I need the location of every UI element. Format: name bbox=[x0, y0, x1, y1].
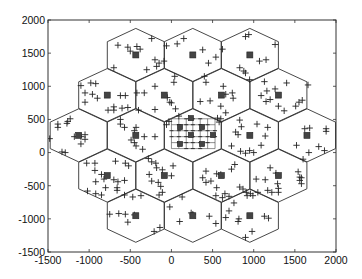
user-plus-marker bbox=[223, 214, 229, 220]
user-plus-marker bbox=[152, 133, 158, 139]
user-plus-marker bbox=[92, 160, 98, 166]
x-tick-label: 2000 bbox=[324, 254, 348, 266]
base-station-marker bbox=[133, 213, 139, 219]
user-plus-marker bbox=[92, 167, 98, 173]
small-cell-marker bbox=[199, 141, 204, 146]
user-plus-marker bbox=[201, 73, 207, 79]
base-station-marker bbox=[218, 92, 224, 98]
user-plus-marker bbox=[237, 65, 243, 71]
base-station-marker bbox=[247, 132, 253, 138]
user-plus-marker bbox=[84, 188, 90, 194]
x-tick-label: 0 bbox=[169, 254, 175, 266]
user-plus-marker bbox=[302, 126, 308, 132]
user-plus-marker bbox=[148, 159, 154, 165]
y-tick-label: 1500 bbox=[22, 47, 46, 59]
user-plus-marker bbox=[261, 78, 267, 84]
user-plus-marker bbox=[264, 88, 270, 94]
user-plus-marker bbox=[176, 218, 182, 224]
user-plus-marker bbox=[117, 121, 123, 127]
user-plus-marker bbox=[121, 124, 127, 130]
user-plus-marker bbox=[246, 76, 252, 82]
x-tick-label: -1000 bbox=[76, 254, 103, 266]
user-plus-marker bbox=[275, 189, 281, 195]
base-station-marker bbox=[76, 132, 82, 138]
user-plus-marker bbox=[292, 103, 298, 109]
user-plus-marker bbox=[305, 82, 311, 88]
user-plus-marker bbox=[228, 143, 234, 149]
user-plus-marker bbox=[152, 106, 158, 112]
user-plus-marker bbox=[134, 90, 140, 96]
base-station-marker bbox=[247, 52, 253, 58]
user-plus-marker bbox=[152, 57, 158, 63]
user-plus-marker bbox=[228, 166, 234, 172]
user-plus-marker bbox=[122, 92, 128, 98]
user-plus-marker bbox=[283, 80, 289, 86]
user-plus-marker bbox=[141, 90, 147, 96]
user-plus-marker bbox=[231, 200, 237, 206]
user-plus-marker bbox=[203, 168, 209, 174]
user-plus-marker bbox=[293, 142, 299, 148]
user-plus-marker bbox=[306, 149, 312, 155]
user-plus-marker bbox=[226, 208, 232, 214]
user-plus-marker bbox=[205, 60, 211, 66]
user-plus-marker bbox=[181, 35, 187, 41]
base-station-marker bbox=[161, 92, 167, 98]
user-plus-marker bbox=[223, 110, 229, 116]
user-plus-marker bbox=[167, 204, 173, 210]
user-plus-marker bbox=[267, 165, 273, 171]
small-cell-marker bbox=[177, 141, 182, 146]
base-station-marker bbox=[190, 213, 196, 219]
user-plus-marker bbox=[213, 54, 219, 60]
hexagonal-cell-scatter-chart: -1500-1000-5000500100015002000 -1500-100… bbox=[0, 0, 362, 279]
user-plus-marker bbox=[55, 124, 61, 130]
user-plus-marker bbox=[172, 106, 178, 112]
x-tick-label: 1000 bbox=[242, 254, 266, 266]
user-plus-marker bbox=[206, 213, 212, 219]
user-plus-marker bbox=[208, 178, 214, 184]
user-plus-marker bbox=[153, 165, 159, 171]
y-tick-label: 500 bbox=[27, 113, 45, 125]
user-plus-marker bbox=[46, 135, 52, 141]
user-plus-marker bbox=[94, 95, 100, 101]
user-plus-marker bbox=[253, 176, 259, 182]
user-plus-marker bbox=[203, 79, 209, 85]
user-plus-marker bbox=[82, 90, 88, 96]
base-station-marker bbox=[104, 173, 110, 179]
user-plus-marker bbox=[119, 105, 125, 111]
user-plus-marker bbox=[207, 98, 213, 104]
base-station-marker bbox=[133, 52, 139, 58]
user-plus-marker bbox=[82, 99, 88, 105]
user-plus-marker bbox=[168, 173, 174, 179]
user-plus-marker bbox=[199, 47, 205, 53]
user-plus-marker bbox=[83, 160, 89, 166]
base-station-marker bbox=[275, 173, 281, 179]
x-tick-label: 1500 bbox=[283, 254, 307, 266]
user-plus-marker bbox=[219, 46, 225, 52]
user-plus-marker bbox=[122, 211, 128, 217]
x-tick-label: 500 bbox=[204, 254, 222, 266]
y-tick-label: -1500 bbox=[18, 246, 45, 258]
user-plus-marker bbox=[151, 228, 157, 234]
small-cell-marker bbox=[188, 132, 193, 137]
user-plus-marker bbox=[133, 143, 139, 149]
user-plus-marker bbox=[274, 181, 280, 187]
base-station-marker bbox=[104, 92, 110, 98]
user-plus-marker bbox=[59, 149, 65, 155]
user-plus-marker bbox=[232, 161, 238, 167]
base-station-marker bbox=[304, 132, 310, 138]
user-plus-marker bbox=[78, 141, 84, 147]
small-cell-marker bbox=[177, 124, 182, 129]
user-plus-marker bbox=[93, 80, 99, 86]
user-plus-marker bbox=[135, 107, 141, 113]
small-cell-marker bbox=[210, 132, 215, 137]
base-station-marker bbox=[133, 132, 139, 138]
user-plus-marker bbox=[88, 80, 94, 86]
user-plus-marker bbox=[146, 171, 152, 177]
user-plus-marker bbox=[125, 219, 131, 225]
user-plus-marker bbox=[229, 90, 235, 96]
user-plus-marker bbox=[89, 91, 95, 97]
user-plus-marker bbox=[255, 189, 261, 195]
user-plus-marker bbox=[272, 86, 278, 92]
user-plus-marker bbox=[144, 67, 150, 73]
user-plus-marker bbox=[254, 121, 260, 127]
